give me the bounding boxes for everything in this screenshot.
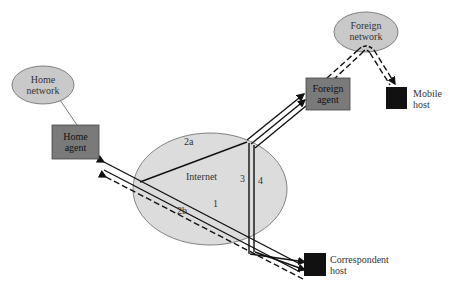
mobile-host-box: [386, 87, 407, 109]
home-network-label-line1: Home: [20, 74, 66, 85]
path-label-4: 4: [258, 175, 263, 186]
home-agent-label-line1: Home: [52, 131, 99, 142]
mobile-ip-diagram: Home network Home agent Foreign agent Fo…: [0, 0, 462, 292]
home-network-label: Home network: [20, 74, 66, 96]
foreign-network-label-line2: network: [340, 31, 392, 42]
foreign-agent-label-line1: Foreign: [305, 83, 351, 94]
mobile-host-label-line1: Mobile: [413, 88, 442, 99]
foreign-agent-label-line2: agent: [305, 94, 351, 105]
path-label-2a: 2a: [184, 136, 193, 147]
correspondent-host-label: Correspondent host: [330, 254, 389, 276]
path-fa-1: [247, 94, 304, 140]
home-network-link: [60, 100, 77, 125]
fa-fn-dash-2: [333, 53, 362, 80]
fa-fn-dash-1: [327, 50, 358, 78]
correspondent-host-label-line2: host: [330, 265, 389, 276]
home-network-label-line2: network: [20, 85, 66, 96]
foreign-agent-label: Foreign agent: [305, 83, 351, 105]
path-fa-2: [251, 100, 305, 144]
home-agent-label-line2: agent: [52, 142, 99, 153]
internet-label: Internet: [186, 171, 217, 182]
foreign-network-label: Foreign network: [340, 20, 392, 42]
foreign-network-label-line1: Foreign: [340, 20, 392, 31]
path-label-1: 1: [213, 198, 218, 209]
correspondent-host-label-line1: Correspondent: [330, 254, 389, 265]
correspondent-host-box: [304, 253, 326, 276]
mobile-host-label-line2: host: [413, 99, 442, 110]
path-label-2b: 2b: [177, 205, 187, 216]
fn-mh-dash-2: [370, 53, 390, 85]
path-label-3: 3: [240, 173, 245, 184]
home-agent-label: Home agent: [52, 131, 99, 153]
mobile-host-label: Mobile host: [413, 88, 442, 110]
fn-mh-dash-1: [374, 50, 395, 84]
